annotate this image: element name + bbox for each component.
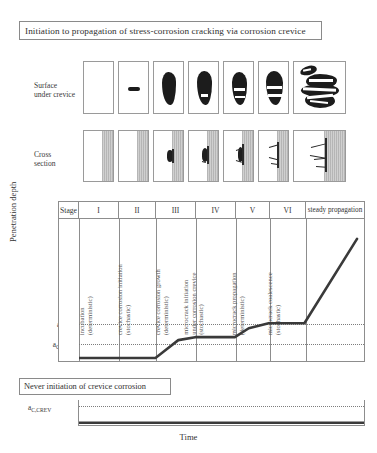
metal-region — [102, 131, 113, 181]
stage-header-vi: VI — [270, 202, 306, 218]
stage-header-v: V — [236, 202, 270, 218]
corrosion-blob — [162, 72, 176, 105]
microcrack — [201, 94, 208, 97]
microcrack — [202, 161, 206, 163]
microcrack — [316, 166, 326, 168]
corrosion-blob — [197, 71, 212, 105]
penetration-depth-curve — [79, 219, 364, 362]
surface-panel-5 — [223, 61, 254, 114]
microcrack — [235, 96, 245, 98]
cross-panel-1 — [83, 130, 114, 182]
surface-panel-4 — [188, 61, 219, 114]
crevice-wall — [207, 146, 209, 164]
never-initiation-chart — [78, 400, 365, 426]
surface-panel-7 — [293, 61, 346, 114]
y-axis-title: Penetration depth — [8, 182, 18, 242]
microcrack — [309, 79, 333, 82]
figure-title-box: Initiation to propagation of stress-corr… — [19, 21, 322, 40]
corrosion-blob — [128, 87, 140, 91]
microcrack — [268, 94, 282, 97]
surface-panel-3 — [153, 61, 184, 114]
stage-header-i: I — [79, 202, 119, 218]
stage-header-row: Stage I II III IV V VI steady propagatio… — [59, 202, 364, 219]
main-stage-chart: Stage I II III IV V VI steady propagatio… — [58, 201, 365, 362]
metal-region — [242, 131, 253, 181]
figure-root: Initiation to propagation of stress-corr… — [0, 0, 377, 453]
metal-region — [207, 131, 218, 181]
figure-title: Initiation to propagation of stress-corr… — [25, 26, 306, 36]
microcrack — [267, 86, 282, 89]
surface-panel-6 — [258, 61, 289, 114]
never-initiation-text: Never initiation of crevice corrosion — [24, 382, 146, 391]
x-axis-title: Time — [0, 432, 377, 442]
never-initiation-note: Never initiation of crevice corrosion — [19, 378, 171, 395]
cross-panel-5 — [223, 130, 254, 182]
crevice-wall — [242, 144, 244, 165]
cross-panel-4 — [188, 130, 219, 182]
metal-region — [137, 131, 148, 181]
microcrack — [234, 88, 245, 91]
surface-panel-1 — [83, 61, 114, 114]
bottom-y-tick-crev: aC,CREV — [28, 404, 51, 413]
cross-panel-7 — [293, 130, 346, 182]
plot-area: incubation (deterministic) crevice corro… — [79, 219, 364, 361]
surface-row-label: Surface under crevice — [34, 81, 84, 99]
stage-header-steady: steady propagation — [306, 202, 364, 218]
microcrack — [271, 163, 278, 165]
metal-region — [172, 131, 183, 181]
stage-header-iii: III — [156, 202, 196, 218]
stage-header-ii: II — [119, 202, 156, 218]
cross-panel-6 — [258, 130, 289, 182]
cross-section-row-label: Cross section — [34, 150, 84, 168]
cross-panel-2 — [118, 130, 149, 182]
surface-panel-2 — [118, 61, 149, 114]
cross-panel-3 — [153, 130, 184, 182]
crevice-wall — [172, 149, 174, 163]
bottom-flat-curve — [79, 400, 364, 426]
stage-header-iv: IV — [196, 202, 236, 218]
stage-header-title: Stage — [59, 202, 79, 218]
